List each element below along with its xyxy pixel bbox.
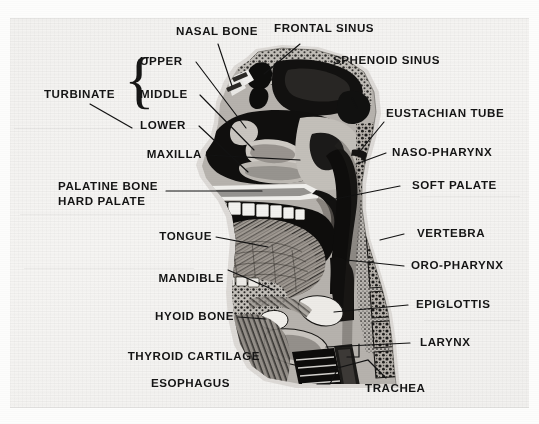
bleed-through-rule [24,268,194,269]
anatomical-figure: NASAL BONE FRONTAL SINUS SPHENOID SINUS … [0,0,539,424]
label-vertebra: VERTEBRA [417,227,485,241]
label-oro-pharynx: ORO-PHARYNX [411,259,504,273]
label-hard-palate: HARD PALATE [58,194,145,209]
label-turbinate: TURBINATE [44,88,115,102]
bleed-through-rule [20,214,200,215]
label-nasal-bone: NASAL BONE [176,25,258,39]
label-hyoid-bone: HYOID BONE [155,310,234,324]
label-larynx: LARYNX [420,336,471,350]
label-thyroid-cartilage: THYROID CARTILAGE [128,350,260,364]
label-turbinate-middle: MIDDLE [140,88,188,102]
paper-edge-top [10,18,529,19]
paper-edge-bottom [10,407,529,408]
label-trachea: TRACHEA [365,382,426,396]
label-turbinate-lower: LOWER [140,119,186,133]
label-frontal-sinus: FRONTAL SINUS [274,22,374,36]
label-sphenoid-sinus: SPHENOID SINUS [333,54,440,68]
label-turbinate-upper: UPPER [140,55,183,69]
label-esophagus: ESOPHAGUS [151,377,230,391]
bleed-through-rule [420,196,520,197]
label-eustachian-tube: EUSTACHIAN TUBE [386,107,504,121]
label-naso-pharynx: NASO-PHARYNX [392,146,492,160]
label-tongue: TONGUE [159,230,212,244]
label-maxilla: MAXILLA [147,148,202,162]
label-soft-palate: SOFT PALATE [412,179,497,193]
label-mandible: MANDIBLE [158,272,224,286]
bleed-through-rule [424,320,520,321]
label-palatine-bone: PALATINE BONE [58,179,158,194]
label-epiglottis: EPIGLOTTIS [416,298,490,312]
